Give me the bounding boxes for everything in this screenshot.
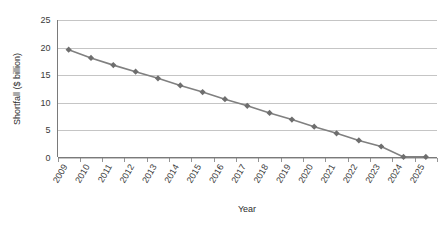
x-tick-label: 2016 [207, 163, 226, 185]
x-tick-label: 2025 [408, 163, 427, 185]
x-tick-label: 2021 [319, 163, 338, 185]
data-point-marker [88, 55, 94, 61]
x-tick-label: 2018 [252, 163, 271, 185]
x-tick-label: 2010 [73, 163, 92, 185]
data-point-marker [66, 47, 72, 53]
x-tick-label: 2014 [162, 163, 181, 185]
y-gridlines [58, 21, 438, 159]
y-tick-label: 25 [40, 15, 50, 25]
data-point-marker [423, 154, 429, 160]
x-tick-label: 2017 [229, 163, 248, 185]
x-tick-label: 2015 [185, 163, 204, 185]
data-point-marker [289, 116, 295, 122]
x-tick-label: 2023 [363, 163, 382, 185]
line-chart-canvas: 0510152025 20092010201120122013201420152… [0, 0, 448, 225]
y-tick-label: 10 [40, 98, 50, 108]
x-tick-label: 2022 [341, 163, 360, 185]
y-axis-title: Shortfall ($ billion) [12, 53, 22, 125]
data-point-marker [133, 69, 139, 75]
x-tick-label: 2013 [140, 163, 159, 185]
data-point-marker [200, 89, 206, 95]
data-point-marker [333, 130, 339, 136]
y-axis-tick-labels: 0510152025 [40, 15, 50, 163]
x-tick-label: 2012 [118, 163, 137, 185]
data-point-marker [222, 96, 228, 102]
data-point-marker [155, 75, 161, 81]
x-tick-label: 2011 [96, 163, 114, 185]
data-point-marker [400, 154, 406, 160]
y-tick-label: 15 [40, 70, 50, 80]
x-axis-title: Year [238, 204, 256, 214]
data-point-marker [311, 124, 317, 130]
x-tick-label: 2009 [51, 163, 70, 185]
data-point-marker [110, 62, 116, 68]
data-point-marker [378, 143, 384, 149]
x-tick-label: 2020 [296, 163, 315, 185]
data-point-marker [177, 82, 183, 88]
y-tick-label: 0 [45, 153, 50, 163]
x-axis-tick-labels: 2009201020112012201320142015201620172018… [51, 163, 427, 185]
chart-figure: 0510152025 20092010201120122013201420152… [0, 0, 448, 225]
y-tick-label: 20 [40, 43, 50, 53]
data-point-marker [356, 137, 362, 143]
data-point-marker [266, 110, 272, 116]
x-tick-label: 2024 [386, 163, 405, 185]
y-tick-label: 5 [45, 125, 50, 135]
x-tick-label: 2019 [274, 163, 293, 185]
